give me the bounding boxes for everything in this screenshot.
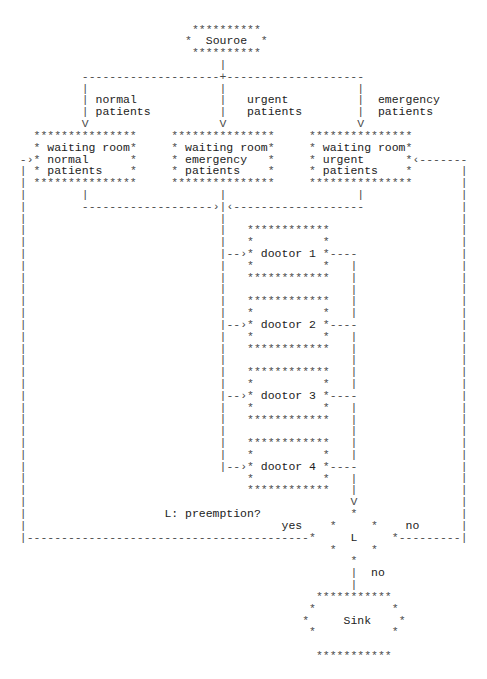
merge-bus-right: ------------------- <box>233 201 364 213</box>
waiting-room-title: waiting room <box>323 142 406 154</box>
box-border-left: * * * <box>171 142 178 177</box>
box-border-right: * * * <box>406 142 413 177</box>
box-border-right: * * * <box>323 307 330 342</box>
box-border-right: * * * <box>323 378 330 413</box>
branch-bus-left: -------------------- <box>82 71 220 83</box>
diamond-vertex-left: * <box>309 532 316 544</box>
box-border-bottom: ************ <box>247 343 330 355</box>
decision-no-exit-label: no <box>371 567 385 579</box>
branch-junction: + <box>220 71 227 83</box>
arrow-right-icon: › <box>213 201 220 213</box>
box-border-left: * * * <box>34 142 41 177</box>
diamond-vertex-right: * <box>392 532 399 544</box>
box-border-left: * * * <box>247 236 254 271</box>
arrow-left-icon: ‹ <box>412 154 419 166</box>
collector-segment: | | | | | <box>350 260 357 319</box>
box-border-top: ************ <box>247 437 330 449</box>
feedback-yes-horizontal-line: ----------------------------------------… <box>27 532 309 544</box>
box-border-left: * * * <box>247 378 254 413</box>
collector-segment: | | <box>350 473 357 497</box>
box-border-right: * * * <box>268 142 275 177</box>
sink-label: Sink <box>344 615 372 627</box>
sink-border-left: * <box>309 603 316 615</box>
box-border-top: ************ <box>247 366 330 378</box>
box-border-bottom: ************ <box>247 272 330 284</box>
doctor-label: dootor 2 <box>261 319 316 331</box>
diagram-canvas: ********** * Souroe * ********** | -----… <box>0 0 487 679</box>
doctor-entry-line: -- <box>226 461 240 473</box>
feedback-yes-vertical-line: | | | | | | | | | | | | | | | | | | | | … <box>20 165 27 543</box>
doctor-entry-line: -- <box>226 248 240 260</box>
doctor-exit-line: ---- <box>330 461 358 473</box>
box-border-bottom: ************ <box>247 414 330 426</box>
branch-normal-line: | | | <box>82 83 89 118</box>
branch-emergency-label-2: patients <box>378 106 433 118</box>
diamond-edge: * <box>371 544 378 556</box>
box-border-right: * * * <box>323 449 330 484</box>
doctor-exit-line: ---- <box>330 390 358 402</box>
sink-border-right: * <box>392 603 399 615</box>
arrow-right-icon: › <box>240 461 247 473</box>
doctor-label: dootor 4 <box>261 461 316 473</box>
branch-emergency-line: | | | <box>357 83 364 118</box>
branch-urgent-label-2: patients <box>247 106 302 118</box>
diamond-edge: * <box>371 520 378 532</box>
merge-bus-left: ------------------- <box>82 201 213 213</box>
box-border-top: *************** <box>34 130 137 142</box>
sink-border-right: * <box>392 626 399 638</box>
doctor-entry-line: -- <box>226 319 240 331</box>
box-border-top: *************** <box>171 130 274 142</box>
arrow-right-icon: › <box>27 154 34 166</box>
decision-yes-label: yes <box>282 520 303 532</box>
diamond-edge: * <box>330 544 337 556</box>
box-border-left: * * * <box>247 307 254 342</box>
decision-exit-line: | | <box>350 567 357 591</box>
box-border-left: * * * <box>247 449 254 484</box>
decision-symbol: L <box>350 532 357 544</box>
collector-segment: | | | | | <box>350 402 357 461</box>
source-border-bottom: ********** <box>192 47 261 59</box>
box-border-top: ************ <box>247 295 330 307</box>
sink-border-top: *********** <box>316 591 392 603</box>
branch-bus-right: -------------------- <box>226 71 364 83</box>
decision-no-feedback-label: no <box>406 520 420 532</box>
source-border-right: * <box>261 35 268 47</box>
decision-caption: L: preemption? <box>164 508 260 520</box>
box-border-right: * * * <box>323 236 330 271</box>
box-border-left: * * * <box>309 142 316 177</box>
sink-border-right: * <box>399 615 406 627</box>
feedback-no-horizontal-line: --------- <box>399 532 461 544</box>
merge-line-left: | <box>82 189 89 201</box>
collector-segment: | | | | | <box>350 331 357 390</box>
waiting-room-title: waiting room <box>185 142 268 154</box>
box-border-top: *************** <box>309 130 412 142</box>
arrow-left-icon: ‹ <box>226 201 233 213</box>
feedback-no-vertical-line: | | | | | | | | | | | | | | | | | | | | … <box>461 165 468 543</box>
source-out-line: | <box>220 59 227 71</box>
merge-line-right: | <box>357 189 364 201</box>
source-border-left: * <box>185 35 192 47</box>
arrow-right-icon: › <box>240 390 247 402</box>
arrow-right-icon: › <box>240 319 247 331</box>
sink-border-bottom: *********** <box>316 650 392 662</box>
box-border-bottom: ************ <box>247 484 330 496</box>
waiting-room-title: waiting room <box>47 142 130 154</box>
branch-normal-label-2: patients <box>96 106 151 118</box>
branch-urgent-line: | | | <box>220 83 227 118</box>
doctor-label: dootor 1 <box>261 248 316 260</box>
sink-border-left: * <box>309 626 316 638</box>
diamond-vertex-top: * <box>350 508 357 520</box>
sink-border-left: * <box>302 615 309 627</box>
arrow-right-icon: › <box>240 248 247 260</box>
doctor-label: dootor 3 <box>261 390 316 402</box>
diamond-edge: * <box>330 520 337 532</box>
doctor-entry-line: -- <box>226 390 240 402</box>
box-border-right: * * * <box>130 142 137 177</box>
doctor-distribution-line: | | | | | | | | | | | | | | | | | | | | … <box>220 189 227 473</box>
box-border-top: ************ <box>247 224 330 236</box>
